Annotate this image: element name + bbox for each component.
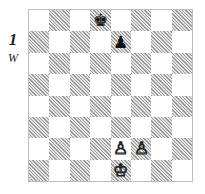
square-a3[interactable] xyxy=(29,117,49,138)
square-b5[interactable] xyxy=(49,74,69,95)
square-e4[interactable] xyxy=(111,96,131,117)
square-c2[interactable] xyxy=(70,138,90,159)
square-b7[interactable] xyxy=(49,31,69,52)
square-d5[interactable] xyxy=(90,74,110,95)
square-a8[interactable] xyxy=(29,10,49,31)
square-b4[interactable] xyxy=(49,96,69,117)
square-a6[interactable] xyxy=(29,53,49,74)
square-h1[interactable] xyxy=(172,160,192,181)
black-king-icon[interactable]: ♚ xyxy=(93,12,108,29)
square-c4[interactable] xyxy=(70,96,90,117)
side-to-move: W xyxy=(0,51,26,66)
square-d2[interactable] xyxy=(90,138,110,159)
white-king-icon[interactable]: ♔ xyxy=(113,162,128,179)
square-b6[interactable] xyxy=(49,53,69,74)
square-g4[interactable] xyxy=(151,96,171,117)
square-c6[interactable] xyxy=(70,53,90,74)
square-e6[interactable] xyxy=(111,53,131,74)
square-h5[interactable] xyxy=(172,74,192,95)
square-f2[interactable]: ♙ xyxy=(131,138,151,159)
white-pawn-icon[interactable]: ♙ xyxy=(134,140,149,157)
square-b1[interactable] xyxy=(49,160,69,181)
square-f6[interactable] xyxy=(131,53,151,74)
square-f3[interactable] xyxy=(131,117,151,138)
square-g3[interactable] xyxy=(151,117,171,138)
square-d3[interactable] xyxy=(90,117,110,138)
square-e2[interactable]: ♙ xyxy=(111,138,131,159)
diagram-number: 1 xyxy=(0,30,26,50)
square-c5[interactable] xyxy=(70,74,90,95)
square-a2[interactable] xyxy=(29,138,49,159)
square-c7[interactable] xyxy=(70,31,90,52)
square-c1[interactable] xyxy=(70,160,90,181)
square-g8[interactable] xyxy=(151,10,171,31)
square-h3[interactable] xyxy=(172,117,192,138)
square-d6[interactable] xyxy=(90,53,110,74)
square-h4[interactable] xyxy=(172,96,192,117)
square-g7[interactable] xyxy=(151,31,171,52)
square-h8[interactable] xyxy=(172,10,192,31)
black-pawn-icon[interactable]: ♟ xyxy=(113,34,128,51)
square-a1[interactable] xyxy=(29,160,49,181)
square-g1[interactable] xyxy=(151,160,171,181)
square-a5[interactable] xyxy=(29,74,49,95)
square-h2[interactable] xyxy=(172,138,192,159)
square-b8[interactable] xyxy=(49,10,69,31)
chess-board: ♚♟♙♙♔ xyxy=(28,9,193,182)
square-e5[interactable] xyxy=(111,74,131,95)
square-c3[interactable] xyxy=(70,117,90,138)
square-f4[interactable] xyxy=(131,96,151,117)
square-b2[interactable] xyxy=(49,138,69,159)
square-h6[interactable] xyxy=(172,53,192,74)
square-g2[interactable] xyxy=(151,138,171,159)
square-d1[interactable] xyxy=(90,160,110,181)
square-h7[interactable] xyxy=(172,31,192,52)
square-e3[interactable] xyxy=(111,117,131,138)
square-f8[interactable] xyxy=(131,10,151,31)
square-d8[interactable]: ♚ xyxy=(90,10,110,31)
white-pawn-icon[interactable]: ♙ xyxy=(113,140,128,157)
square-f7[interactable] xyxy=(131,31,151,52)
square-b3[interactable] xyxy=(49,117,69,138)
square-a4[interactable] xyxy=(29,96,49,117)
square-f1[interactable] xyxy=(131,160,151,181)
square-c8[interactable] xyxy=(70,10,90,31)
square-e7[interactable]: ♟ xyxy=(111,31,131,52)
square-d4[interactable] xyxy=(90,96,110,117)
square-a7[interactable] xyxy=(29,31,49,52)
square-e8[interactable] xyxy=(111,10,131,31)
square-d7[interactable] xyxy=(90,31,110,52)
square-g5[interactable] xyxy=(151,74,171,95)
square-e1[interactable]: ♔ xyxy=(111,160,131,181)
square-f5[interactable] xyxy=(131,74,151,95)
square-g6[interactable] xyxy=(151,53,171,74)
